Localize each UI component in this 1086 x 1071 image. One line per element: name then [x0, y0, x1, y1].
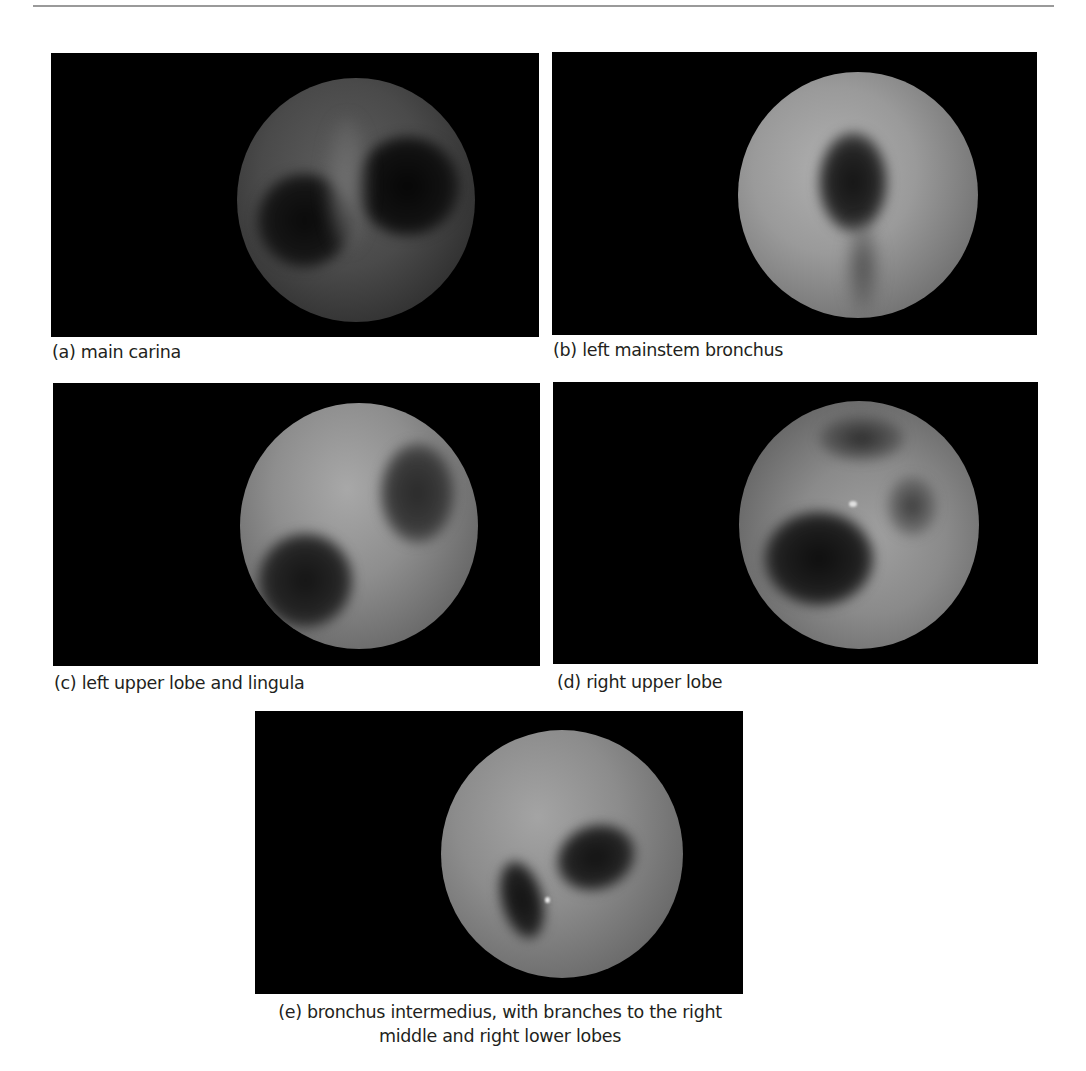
- scope-view-b: [738, 72, 978, 318]
- bronchoscopy-image-b: [552, 52, 1037, 335]
- light-reflection: [849, 501, 857, 507]
- airway-lumen: [818, 132, 888, 232]
- airway-fold: [848, 222, 878, 312]
- bronchoscopy-image-e: [255, 711, 743, 994]
- scope-view-c: [240, 403, 478, 649]
- scope-view-a: [237, 78, 475, 322]
- bronchoscopy-image-a: [51, 53, 539, 337]
- airway-opening-top: [819, 416, 904, 461]
- caption-c: (c) left upper lobe and lingula: [54, 672, 304, 694]
- caption-d: (d) right upper lobe: [557, 671, 722, 693]
- caption-e: (e) bronchus intermedius, with branches …: [220, 1000, 780, 1048]
- airway-opening-right: [547, 813, 644, 901]
- airway-opening-right: [355, 136, 460, 236]
- carina-ridge: [327, 118, 367, 248]
- scope-view-e: [441, 730, 683, 978]
- caption-b: (b) left mainstem bronchus: [553, 339, 783, 361]
- bronchoscopy-image-c: [53, 383, 540, 666]
- bronchoscopy-image-d: [553, 382, 1038, 664]
- caption-e-line2: middle and right lower lobes: [220, 1024, 780, 1048]
- header-rule: [33, 5, 1054, 7]
- airway-opening-left: [491, 856, 552, 944]
- light-reflection: [545, 897, 550, 903]
- airway-opening-large: [764, 511, 874, 606]
- airway-opening-right: [887, 476, 937, 536]
- airway-opening-lingula: [258, 533, 353, 628]
- airway-opening-upper-lobe: [380, 443, 455, 543]
- caption-e-line1: (e) bronchus intermedius, with branches …: [220, 1000, 780, 1024]
- scope-view-d: [739, 401, 979, 649]
- caption-a: (a) main carina: [52, 341, 181, 363]
